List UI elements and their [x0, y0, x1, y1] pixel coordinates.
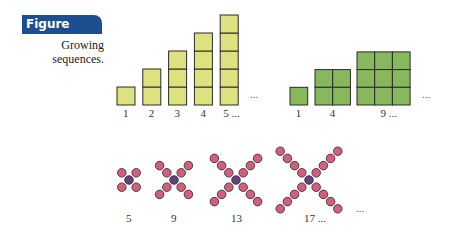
bar-cell: [220, 69, 238, 87]
square-label: 9 ...: [381, 107, 398, 119]
growing-sequences-diagram: 12345 ... ... 149 ... ... 591317 ... ...: [0, 0, 453, 236]
bar-sequence-ellipsis: ...: [250, 88, 259, 100]
bar-cell: [194, 33, 212, 51]
outer-dot: [298, 183, 307, 192]
outer-dot: [132, 169, 141, 178]
bar-cell: [220, 15, 238, 33]
outer-dot: [225, 169, 234, 178]
cross-label: 5: [126, 212, 132, 224]
outer-dot: [312, 169, 321, 178]
outer-dot: [290, 190, 299, 199]
outer-dot: [225, 183, 234, 192]
bar-cell: [143, 87, 161, 105]
cross-label: 17 ...: [304, 212, 326, 224]
bar-label: 4: [200, 107, 206, 119]
outer-dot: [239, 169, 248, 178]
square-cell: [375, 52, 393, 70]
bar-cell: [117, 87, 135, 105]
outer-dot: [283, 197, 292, 206]
outer-dot: [155, 161, 164, 170]
square-cell: [357, 70, 375, 88]
center-dot: [305, 176, 314, 185]
outer-dot: [246, 161, 255, 170]
bar-cell: [220, 33, 238, 51]
dot-cross: 17 ...: [276, 147, 342, 224]
outer-dot: [210, 154, 219, 163]
outer-dot: [217, 190, 226, 199]
bar-cell: [169, 51, 187, 69]
outer-dot: [253, 154, 262, 163]
outer-dot: [217, 161, 226, 170]
bar-cell: [194, 51, 212, 69]
outer-dot: [283, 154, 292, 163]
outer-dot: [312, 183, 321, 192]
bar-label: 2: [149, 107, 155, 119]
square-grid: 4: [315, 70, 350, 119]
outer-dot: [253, 197, 262, 206]
outer-dot: [326, 197, 335, 206]
outer-dot: [163, 169, 172, 178]
square-cell: [392, 52, 410, 70]
square-cell: [375, 70, 393, 88]
square-grid: 1: [290, 87, 308, 119]
outer-dot: [326, 154, 335, 163]
square-sequence-ellipsis: ...: [422, 88, 431, 100]
center-dot: [125, 176, 134, 185]
outer-dot: [155, 190, 164, 199]
bar-label: 5 ...: [223, 107, 240, 119]
square-cell: [357, 87, 375, 105]
square-cell: [392, 70, 410, 88]
cross-sequence-ellipsis: ...: [356, 202, 365, 214]
outer-dot: [184, 161, 193, 170]
bar-cell: [143, 69, 161, 87]
outer-dot: [290, 161, 299, 170]
outer-dot: [118, 169, 127, 178]
bar-label: 1: [123, 107, 129, 119]
bar-stack: 2: [143, 69, 161, 119]
square-cell: [290, 87, 308, 105]
outer-dot: [239, 183, 248, 192]
bar-sequence: 12345 ...: [117, 15, 240, 119]
outer-dot: [276, 205, 285, 214]
bar-label: 3: [175, 107, 181, 119]
dot-cross: 13: [210, 154, 262, 224]
square-cell: [392, 87, 410, 105]
outer-dot: [177, 183, 186, 192]
dot-cross: 9: [155, 161, 192, 224]
outer-dot: [319, 190, 328, 199]
square-cell: [333, 70, 351, 88]
outer-dot: [118, 183, 127, 192]
outer-dot: [334, 147, 343, 156]
bar-cell: [169, 69, 187, 87]
bar-stack: 5 ...: [220, 15, 240, 119]
bar-stack: 3: [169, 51, 187, 119]
square-label: 1: [296, 107, 302, 119]
cross-sequence: 591317 ...: [118, 147, 343, 224]
bar-stack: 1: [117, 87, 135, 119]
outer-dot: [246, 190, 255, 199]
square-cell: [375, 87, 393, 105]
dot-cross: 5: [118, 169, 141, 225]
outer-dot: [132, 183, 141, 192]
square-label: 4: [330, 107, 336, 119]
cross-label: 13: [231, 212, 243, 224]
square-cell: [315, 70, 333, 88]
cross-label: 9: [171, 212, 177, 224]
bar-stack: 4: [194, 33, 212, 119]
outer-dot: [298, 169, 307, 178]
outer-dot: [276, 147, 285, 156]
bar-cell: [220, 87, 238, 105]
center-dot: [232, 176, 241, 185]
square-cell: [315, 87, 333, 105]
outer-dot: [334, 205, 343, 214]
bar-cell: [169, 87, 187, 105]
bar-cell: [194, 87, 212, 105]
outer-dot: [319, 161, 328, 170]
outer-dot: [210, 197, 219, 206]
center-dot: [170, 176, 179, 185]
square-grid: 9 ...: [357, 52, 410, 119]
bar-cell: [194, 69, 212, 87]
square-cell: [333, 87, 351, 105]
outer-dot: [184, 190, 193, 199]
square-cell: [357, 52, 375, 70]
